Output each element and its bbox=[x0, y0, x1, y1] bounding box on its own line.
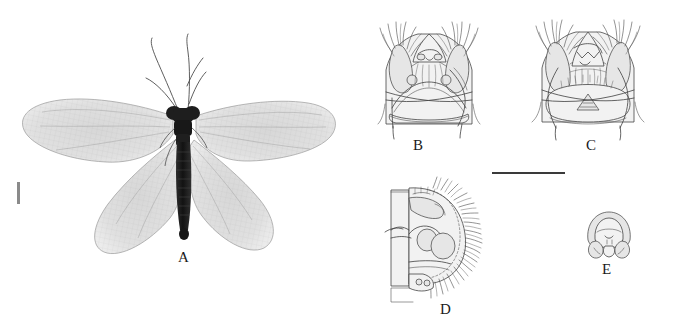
sclerite-e-illustration bbox=[578, 206, 640, 266]
genitalia-d-illustration bbox=[383, 182, 513, 307]
panel-b-genitalia-ventral: B bbox=[368, 12, 493, 142]
panel-label-c: C bbox=[586, 138, 596, 153]
habitus-illustration bbox=[10, 8, 340, 278]
panel-label-d: D bbox=[440, 302, 451, 317]
genitalia-c-illustration bbox=[522, 12, 654, 142]
wing-forewing-right bbox=[196, 101, 335, 161]
genitalia-b-illustration bbox=[368, 12, 493, 142]
abdomen bbox=[176, 142, 191, 240]
panel-label-a: A bbox=[178, 250, 189, 265]
panel-label-e: E bbox=[602, 262, 611, 277]
figure-plate: A bbox=[0, 0, 675, 332]
panel-c-genitalia-ventral: C bbox=[522, 12, 654, 142]
panel-label-b: B bbox=[413, 138, 423, 153]
scale-bar-habitus bbox=[17, 182, 20, 204]
antennae bbox=[146, 34, 206, 110]
wing-forewing-left bbox=[23, 99, 174, 162]
panel-a-habitus: A bbox=[10, 8, 340, 278]
scale-bar-genitalia bbox=[492, 172, 565, 174]
panel-e-sclerite-detail: E bbox=[578, 206, 640, 266]
panel-d-genitalia-lateral: D bbox=[383, 182, 513, 307]
